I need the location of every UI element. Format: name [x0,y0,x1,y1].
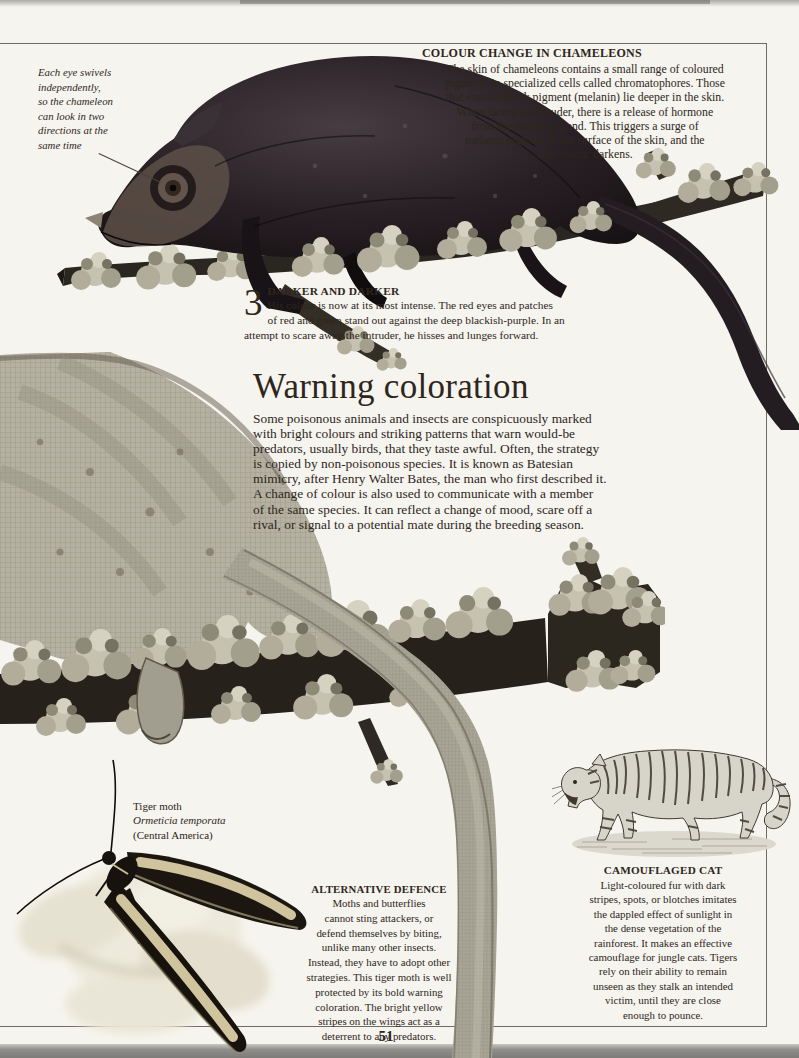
camouflaged-cat-heading: CAMOUFLAGED CAT [565,864,761,876]
camouflaged-cat-body: Light-coloured fur with dark stripes, sp… [565,878,761,1022]
tiger-figure [552,728,794,866]
tiger-moth-caption: Tiger moth Ormeticia temporata (Central … [133,799,226,842]
tiger-moth-species: Ormeticia temporata [133,813,226,827]
alternative-defence-body: Moths and butterflies cannot sting attac… [288,896,470,1044]
colour-change-heading: COLOUR CHANGE IN CHAMELEONS [408,46,762,61]
alternative-defence-heading: ALTERNATIVE DEFENCE [288,883,470,895]
section-alternative-defence: ALTERNATIVE DEFENCE Moths and butterflie… [288,883,470,1044]
eye-caption: Each eye swivels independently, so the c… [38,65,178,153]
section-colour-change: COLOUR CHANGE IN CHAMELEONS The skin of … [408,46,762,161]
tiger-moth-origin: (Central America) [133,828,226,842]
darker-heading: DARKER AND DARKER [244,285,594,297]
section-warning-coloration: Warning coloration Some poisonous animal… [253,368,685,532]
book-page: { "page": { "number": "51", "paper_color… [0,0,799,1058]
scan-edge-top-smudge [240,0,710,4]
warning-title: Warning coloration [253,368,685,406]
step-number: 3 [244,287,263,318]
darker-body: His colour is now at its most intense. T… [244,298,594,344]
warning-body: Some poisonous animals and insects are c… [253,411,685,532]
page-number: 51 [0,1028,772,1045]
tiger-moth-common-name: Tiger moth [133,799,226,813]
colour-change-body: The skin of chameleons contains a small … [408,62,762,161]
section-camouflaged-cat: CAMOUFLAGED CAT Light-coloured fur with … [565,864,761,1022]
section-darker-and-darker: 3 DARKER AND DARKER His colour is now at… [244,285,594,344]
